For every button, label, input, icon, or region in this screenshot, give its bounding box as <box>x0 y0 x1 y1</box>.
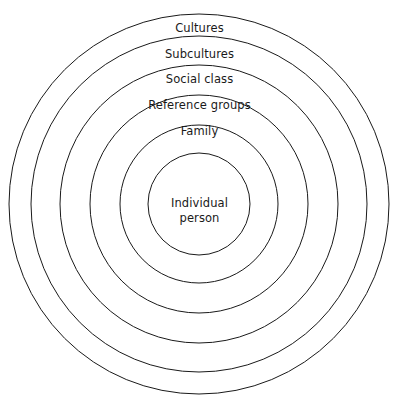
core-label-line-2: person <box>0 211 399 226</box>
concentric-influences-diagram: Cultures Subcultures Social class Refere… <box>0 0 399 410</box>
core-label-line-1: Individual <box>0 196 399 211</box>
core-label-individual-person: Individual person <box>0 196 399 226</box>
